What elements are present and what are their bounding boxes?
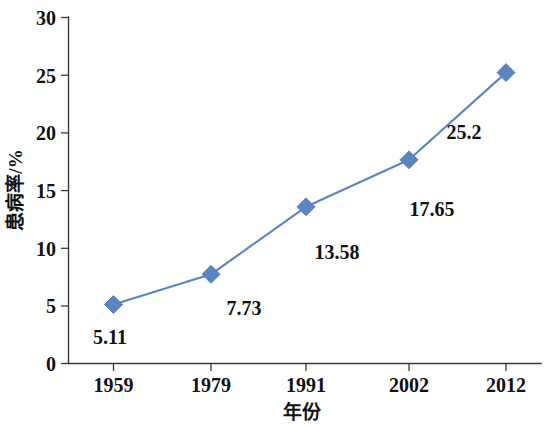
x-tick-label-2002: 2002 — [389, 374, 429, 396]
data-label-1979: 7.73 — [227, 297, 262, 319]
x-tick-labels: 1959 1979 1991 2002 2012 — [94, 374, 527, 396]
x-axis-title: 年份 — [283, 401, 322, 423]
data-point-marker-1979 — [202, 265, 220, 283]
y-tick-label-20: 20 — [36, 122, 56, 144]
y-tick-label-30: 30 — [36, 7, 56, 29]
data-label-1959: 5.11 — [93, 326, 127, 348]
line-chart: 30 25 20 15 10 5 0 1959 1979 1991 2002 2… — [0, 0, 548, 427]
y-tick-label-10: 10 — [36, 238, 56, 260]
x-tick-marks — [114, 364, 507, 372]
x-tick-label-2012: 2012 — [486, 374, 526, 396]
x-tick-label-1959: 1959 — [94, 374, 134, 396]
series-markers — [105, 64, 516, 314]
data-label-2012: 25.2 — [447, 121, 482, 143]
data-point-marker-1959 — [105, 296, 123, 314]
data-label-2002: 17.65 — [410, 198, 455, 220]
y-tick-label-25: 25 — [36, 65, 56, 87]
series-line-prevalence — [114, 73, 507, 305]
y-tick-marks — [61, 18, 69, 364]
x-tick-label-1991: 1991 — [286, 374, 326, 396]
chart-canvas: 30 25 20 15 10 5 0 1959 1979 1991 2002 2… — [0, 0, 548, 427]
y-tick-label-0: 0 — [46, 353, 56, 375]
data-point-marker-1991 — [297, 198, 315, 216]
data-label-1991: 13.58 — [315, 241, 360, 263]
data-value-labels: 5.11 7.73 13.58 17.65 25.2 — [93, 121, 481, 348]
y-tick-labels: 30 25 20 15 10 5 0 — [36, 7, 56, 375]
y-tick-label-15: 15 — [36, 180, 56, 202]
x-tick-label-1979: 1979 — [191, 374, 231, 396]
y-axis-title: 患病率/% — [4, 149, 26, 230]
y-tick-label-5: 5 — [46, 295, 56, 317]
